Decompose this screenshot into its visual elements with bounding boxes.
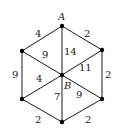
vertex-top-left [20,49,24,53]
weight-BL-BOT: 2 [35,114,41,125]
weight-A-TL: 4 [35,28,41,39]
weight-BR-BOT: 2 [85,114,91,125]
vertex-top-right [100,48,104,52]
edge-A-TL [22,26,62,51]
weighted-graph: A B 4 2 14 9 11 9 2 4 7 9 2 2 [0,0,122,128]
vertex-B [60,73,64,77]
weight-BL-B: 4 [36,73,42,84]
weight-B-BR: 9 [76,89,82,100]
weight-B-BOT: 7 [54,91,60,102]
vertex-bottom-left [20,97,24,101]
vertex-bottom-right [100,97,104,101]
weight-TR-B: 11 [79,62,92,73]
weight-TR-BR: 2 [105,69,111,80]
edge-BR-BOT [62,99,102,122]
edge-BL-BOT [22,99,62,122]
vertex-label-A: A [57,11,65,22]
vertex-bottom [60,120,64,124]
weight-A-TR: 2 [84,28,90,39]
vertex-A [60,24,64,28]
weight-TL-B: 9 [42,49,48,60]
weight-TL-BL: 9 [12,69,18,80]
vertex-label-B: B [63,80,71,91]
weight-A-B: 14 [64,46,77,57]
